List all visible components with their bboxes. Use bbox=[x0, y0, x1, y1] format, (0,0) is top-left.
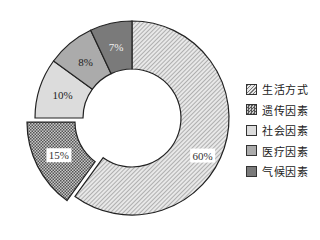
legend-item-social: 社会因素 bbox=[246, 120, 308, 141]
legend-label: 遗传因素 bbox=[262, 102, 308, 118]
legend-swatch-icon bbox=[246, 84, 257, 95]
legend: 生活方式 遗传因素 社会因素 医疗因素 气候因素 bbox=[246, 79, 308, 182]
legend-swatch-icon bbox=[246, 125, 257, 136]
legend-label: 气候因素 bbox=[262, 163, 308, 179]
legend-swatch-icon bbox=[246, 104, 257, 115]
legend-item-medical: 医疗因素 bbox=[246, 141, 308, 162]
slice-label: 7% bbox=[109, 41, 124, 53]
legend-swatch-icon bbox=[246, 145, 257, 156]
legend-item-genetic: 遗传因素 bbox=[246, 100, 308, 121]
slice-label: 15% bbox=[49, 149, 69, 161]
legend-label: 社会因素 bbox=[262, 122, 308, 138]
slice-label: 60% bbox=[193, 150, 213, 162]
legend-label: 医疗因素 bbox=[262, 143, 308, 159]
slice-label: 8% bbox=[78, 56, 93, 68]
legend-label: 生活方式 bbox=[262, 81, 308, 97]
slice-label: 10% bbox=[52, 89, 72, 101]
legend-item-climate: 气候因素 bbox=[246, 161, 308, 182]
legend-swatch-icon bbox=[246, 166, 257, 177]
legend-item-lifestyle: 生活方式 bbox=[246, 79, 308, 100]
